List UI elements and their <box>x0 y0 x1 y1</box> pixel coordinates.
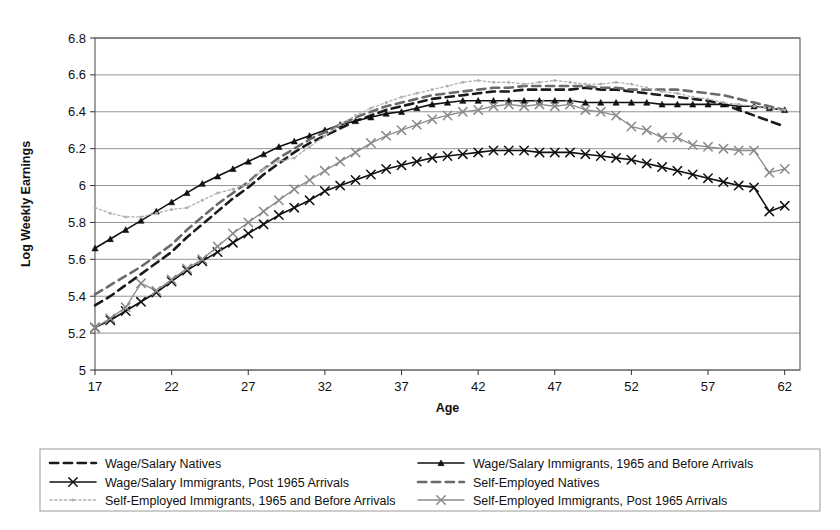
marker-dot-7 <box>201 199 204 202</box>
marker-dot-40 <box>707 97 710 100</box>
legend-label-0: Wage/Salary Natives <box>105 457 221 471</box>
marker-dot-28 <box>523 83 526 86</box>
y-tick-label-6.6: 6.6 <box>68 67 86 82</box>
y-tick-label-6.4: 6.4 <box>68 104 86 119</box>
marker-dot-44 <box>768 107 771 110</box>
marker-dot-32 <box>584 83 587 86</box>
x-tick-label-62: 62 <box>777 379 791 394</box>
legend: Wage/Salary NativesWage/Salary Immigrant… <box>40 449 820 511</box>
marker-dot-38 <box>676 92 679 95</box>
marker-dot-43 <box>753 105 756 108</box>
marker-dot-25 <box>477 79 480 82</box>
legend-label-4: Self-Employed Immigrants, 1965 and Befor… <box>105 494 395 508</box>
marker-dot-26 <box>492 81 495 84</box>
marker-dot-2 <box>124 215 127 218</box>
marker-dot-42 <box>737 103 740 106</box>
y-tick-label-5.6: 5.6 <box>68 252 86 267</box>
marker-dot-24 <box>461 81 464 84</box>
y-tick-label-6.2: 6.2 <box>68 141 86 156</box>
x-tick-label-17: 17 <box>88 379 102 394</box>
y-tick-label-5: 5 <box>79 363 86 378</box>
marker-dot-31 <box>569 81 572 84</box>
marker-dot-30 <box>553 79 556 82</box>
y-tick-label-6: 6 <box>79 178 86 193</box>
plot-background <box>95 38 800 370</box>
y-axis: 55.25.45.65.866.26.46.66.8Log Weekly Ear… <box>19 31 95 378</box>
x-tick-label-32: 32 <box>318 379 332 394</box>
legend-label-3: Self-Employed Natives <box>473 476 599 490</box>
marker-dot-16 <box>339 123 342 126</box>
marker-dot-3 <box>140 215 143 218</box>
legend-label-2: Wage/Salary Immigrants, Post 1965 Arriva… <box>105 476 349 490</box>
marker-dot-20 <box>400 96 403 99</box>
marker-dot-39 <box>691 96 694 99</box>
x-tick-label-47: 47 <box>548 379 562 394</box>
y-tick-label-5.2: 5.2 <box>68 326 86 341</box>
y-axis-title: Log Weekly Earnings <box>19 141 33 267</box>
marker-dot-33 <box>599 83 602 86</box>
marker-dot-17 <box>354 114 357 117</box>
marker-dot-45 <box>783 108 786 111</box>
x-tick-label-42: 42 <box>471 379 485 394</box>
marker-dot-11 <box>262 168 265 171</box>
x-tick-label-57: 57 <box>701 379 715 394</box>
marker-dot-10 <box>247 182 250 185</box>
x-axis-title: Age <box>436 401 460 415</box>
marker-dot-29 <box>538 81 541 84</box>
y-tick-label-5.8: 5.8 <box>68 215 86 230</box>
marker-dot-22 <box>431 88 434 91</box>
legend-label-5: Self-Employed Immigrants, Post 1965 Arri… <box>473 494 727 508</box>
legend-label-1: Wage/Salary Immigrants, 1965 and Before … <box>473 457 753 471</box>
marker-dot-12 <box>277 160 280 163</box>
x-tick-label-22: 22 <box>164 379 178 394</box>
x-axis: 17222732374247525762Age <box>88 370 792 415</box>
marker-dot-36 <box>645 86 648 89</box>
y-tick-label-6.8: 6.8 <box>68 31 86 46</box>
marker-dot-leg4 <box>72 499 75 502</box>
marker-dot-9 <box>231 188 234 191</box>
marker-dot-4 <box>155 212 158 215</box>
marker-dot-5 <box>170 208 173 211</box>
marker-dot-6 <box>186 206 189 209</box>
marker-dot-8 <box>216 191 219 194</box>
marker-dot-27 <box>507 81 510 84</box>
marker-dot-0 <box>94 206 97 209</box>
marker-dot-15 <box>323 134 326 137</box>
marker-dot-23 <box>446 85 449 88</box>
marker-dot-37 <box>661 90 664 93</box>
chart-figure: 55.25.45.65.866.26.46.66.8Log Weekly Ear… <box>0 0 840 530</box>
marker-dot-18 <box>369 107 372 110</box>
marker-dot-41 <box>722 101 725 104</box>
x-tick-label-27: 27 <box>241 379 255 394</box>
marker-dot-19 <box>385 101 388 104</box>
log-weekly-earnings-by-age-chart: 55.25.45.65.866.26.46.66.8Log Weekly Ear… <box>0 0 840 530</box>
y-tick-label-5.4: 5.4 <box>68 289 86 304</box>
marker-dot-14 <box>308 145 311 148</box>
x-tick-label-52: 52 <box>624 379 638 394</box>
marker-dot-1 <box>109 212 112 215</box>
marker-dot-13 <box>293 156 296 159</box>
x-tick-label-37: 37 <box>394 379 408 394</box>
marker-dot-34 <box>615 81 618 84</box>
marker-dot-21 <box>415 92 418 95</box>
marker-dot-35 <box>630 83 633 86</box>
